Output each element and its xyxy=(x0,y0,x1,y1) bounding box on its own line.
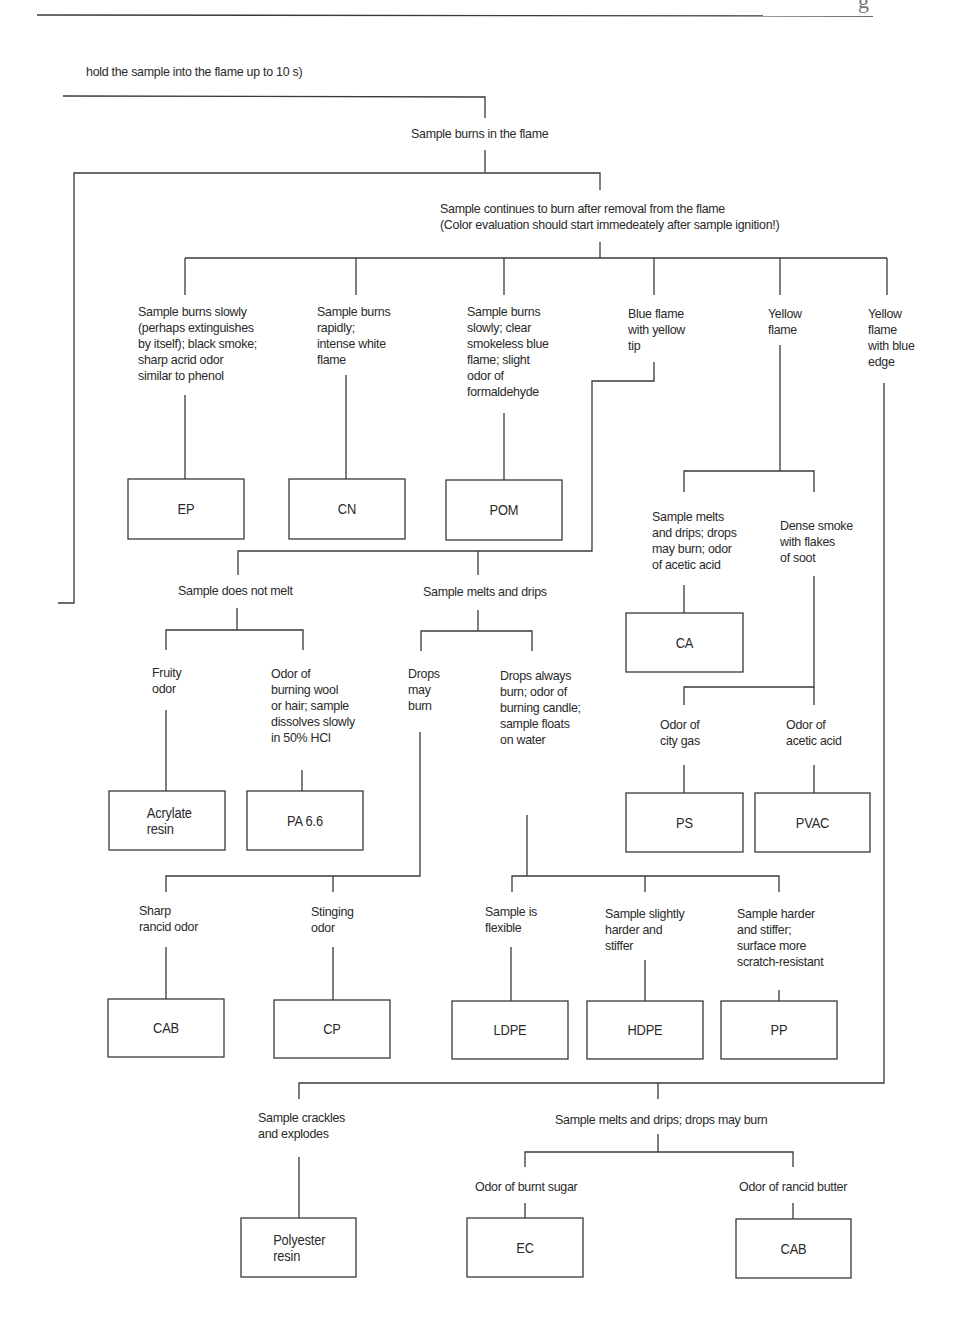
node-melts-drops-may-burn: Sample melts and drips; drops may burn xyxy=(555,1112,767,1128)
node-drops-may-burn: Drops may burn xyxy=(408,666,440,714)
result-pvac: PVAC xyxy=(760,793,866,852)
flowchart-connectors xyxy=(0,0,963,1333)
node-blue-flame-yellow-tip: Blue flame with yellow tip xyxy=(628,306,685,354)
result-ca: CA xyxy=(631,613,739,672)
result-hdpe: HDPE xyxy=(592,1001,699,1059)
node-melts-and-drips: Sample melts and drips xyxy=(423,584,547,600)
node-slightly-harder: Sample slightly harder and stiffer xyxy=(605,906,684,954)
node-pom-criteria: Sample burns slowly; clear smokeless blu… xyxy=(467,304,549,400)
node-sample-flexible: Sample is flexible xyxy=(485,904,537,936)
node-melts-acetic-acid: Sample melts and drips; drops may burn; … xyxy=(652,509,737,573)
node-city-gas: Odor of city gas xyxy=(660,717,700,749)
node-cn-criteria: Sample burns rapidly; intense white flam… xyxy=(317,304,390,368)
result-pa66: PA 6.6 xyxy=(252,791,359,850)
result-ps: PS xyxy=(631,793,739,852)
result-cab-2: CAB xyxy=(741,1219,847,1278)
node-sharp-rancid-odor: Sharp rancid odor xyxy=(139,903,198,935)
result-ldpe: LDPE xyxy=(457,1001,564,1059)
result-ep: EP xyxy=(133,479,240,539)
result-cab: CAB xyxy=(113,999,220,1057)
node-fruity-odor: Fruity odor xyxy=(152,665,181,697)
page-header-fragment: g xyxy=(858,0,869,14)
intro-text: hold the sample into the flame up to 10 … xyxy=(86,64,302,80)
node-crackles-explodes: Sample crackles and explodes xyxy=(258,1110,345,1142)
node-yellow-flame: Yellow flame xyxy=(768,306,802,338)
result-pp: PP xyxy=(726,1001,833,1059)
node-burnt-sugar: Odor of burnt sugar xyxy=(475,1179,577,1195)
node-drops-always-burn: Drops always burn; odor of burning candl… xyxy=(500,668,581,748)
node-yellow-flame-blue-edge: Yellow flame with blue edge xyxy=(868,306,915,370)
node-dense-smoke: Dense smoke with flakes of soot xyxy=(780,518,853,566)
result-cp: CP xyxy=(279,1000,386,1058)
node-ep-criteria: Sample burns slowly (perhaps extinguishe… xyxy=(138,304,257,384)
node-burning-wool: Odor of burning wool or hair; sample dis… xyxy=(271,666,355,746)
node-burns-in-flame: Sample burns in the flame xyxy=(411,126,548,142)
node-does-not-melt: Sample does not melt xyxy=(178,583,293,599)
node-acetic-acid-odor: Odor of acetic acid xyxy=(786,717,842,749)
node-stinging-odor: Stinging odor xyxy=(311,904,354,936)
result-pom: POM xyxy=(451,480,558,540)
result-polyester-resin: Polyester resin xyxy=(246,1218,352,1277)
result-acrylate-resin: Acrylate resin xyxy=(114,791,221,850)
node-continues-to-burn: Sample continues to burn after removal f… xyxy=(440,201,725,217)
node-harder-stiffer: Sample harder and stiffer; surface more … xyxy=(737,906,823,970)
result-ec: EC xyxy=(472,1218,579,1277)
node-rancid-butter: Odor of rancid butter xyxy=(739,1179,847,1195)
node-color-evaluation-note: (Color evaluation should start immedeate… xyxy=(440,217,779,233)
result-cn: CN xyxy=(294,479,401,539)
